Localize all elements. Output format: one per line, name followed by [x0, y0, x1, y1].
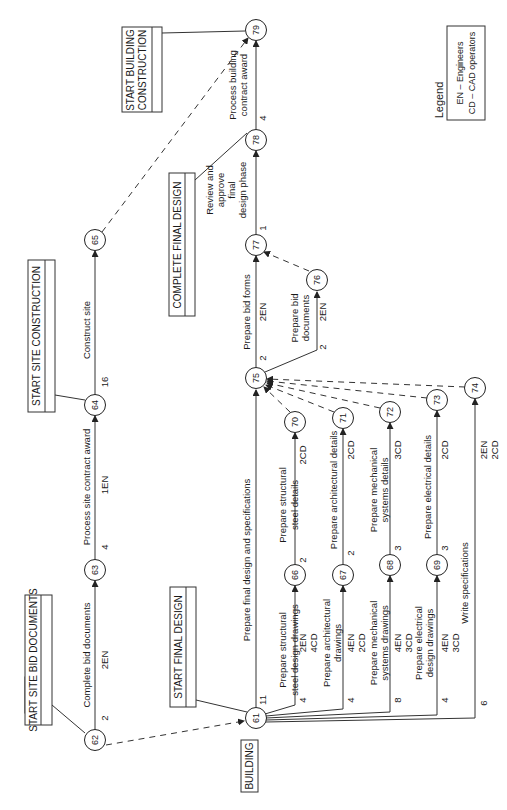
svg-text:steel details: steel details — [289, 480, 300, 530]
svg-text:1: 1 — [257, 225, 268, 230]
svg-text:Prepare structural: Prepare structural — [277, 467, 288, 543]
svg-text:2CD: 2CD — [297, 445, 308, 464]
svg-text:78: 78 — [251, 135, 261, 145]
dummy-76-77 — [264, 252, 309, 271]
svg-text:3CD: 3CD — [392, 440, 403, 459]
dummy-62-61 — [106, 721, 244, 745]
node-70: 70 — [285, 412, 306, 433]
legend-item-cd: CD – CAD operators — [467, 31, 477, 114]
dummy-71-75 — [266, 385, 334, 412]
svg-text:66: 66 — [290, 570, 300, 580]
node-67: 67 — [333, 565, 354, 586]
svg-text:2EN: 2EN — [478, 441, 489, 460]
svg-text:Process site contract award: Process site contract award — [81, 429, 92, 546]
svg-text:Construct site: Construct site — [81, 301, 92, 359]
node-68: 68 — [380, 555, 401, 576]
node-75: 75 — [246, 368, 267, 389]
svg-text:3: 3 — [392, 545, 403, 550]
milestone-start-final-design: START FINAL DESIGN — [170, 587, 247, 712]
svg-text:79: 79 — [251, 25, 261, 35]
svg-text:62: 62 — [90, 735, 100, 745]
svg-text:4: 4 — [99, 544, 110, 549]
svg-text:design phase: design phase — [237, 162, 248, 219]
building-label-box: BUILDING — [241, 740, 258, 792]
dummy-74-75 — [267, 379, 465, 387]
svg-text:3: 3 — [439, 545, 450, 550]
svg-text:61: 61 — [251, 713, 261, 723]
node-79: 79 — [246, 20, 267, 41]
svg-text:2CD: 2CD — [439, 440, 450, 459]
node-69: 69 — [427, 555, 448, 576]
legend-item-en: EN – Engineers — [455, 41, 465, 105]
svg-text:4: 4 — [345, 697, 356, 702]
svg-text:Process building: Process building — [227, 50, 238, 120]
svg-text:Complete bid documents: Complete bid documents — [81, 602, 92, 707]
svg-text:2: 2 — [99, 715, 110, 720]
svg-text:2: 2 — [257, 355, 268, 360]
svg-text:73: 73 — [432, 395, 442, 405]
svg-text:8: 8 — [392, 697, 403, 702]
node-76: 76 — [307, 270, 328, 291]
svg-text:2EN: 2EN — [99, 651, 110, 670]
svg-text:4CD: 4CD — [308, 633, 319, 652]
node-64: 64 — [85, 395, 106, 416]
svg-text:Prepare mechanical: Prepare mechanical — [368, 448, 379, 533]
svg-text:Prepare electrical details: Prepare electrical details — [422, 435, 433, 539]
svg-text:Prepare bid forms: Prepare bid forms — [241, 274, 252, 350]
svg-text:approve: approve — [215, 173, 226, 207]
svg-text:systems details: systems details — [379, 457, 390, 522]
svg-text:4EN: 4EN — [439, 634, 450, 653]
svg-text:Write specifications: Write specifications — [459, 542, 470, 624]
svg-text:2EN: 2EN — [297, 634, 308, 653]
node-77: 77 — [246, 235, 267, 256]
svg-text:4: 4 — [257, 115, 268, 120]
milestone-complete-final-design: COMPLETE FINAL DESIGN — [169, 133, 247, 316]
svg-text:75: 75 — [251, 373, 261, 383]
svg-text:4: 4 — [439, 697, 450, 702]
svg-text:START FINAL DESIGN: START FINAL DESIGN — [173, 595, 184, 699]
svg-text:1EN: 1EN — [99, 476, 110, 495]
svg-text:drawings: drawings — [332, 624, 343, 662]
svg-text:START BUILDING: START BUILDING — [125, 29, 136, 111]
svg-text:2CD: 2CD — [489, 440, 500, 459]
svg-text:64: 64 — [90, 400, 100, 410]
milestone-start-site-bid-documents: START SITE BID DOCUMENTS — [25, 588, 85, 733]
svg-text:START SITE BID DOCUMENTS: START SITE BID DOCUMENTS — [28, 588, 39, 732]
svg-text:2EN: 2EN — [317, 303, 328, 322]
svg-text:3CD: 3CD — [450, 633, 461, 652]
network-diagram: SITE START SITE BID DOCUMENTS START SITE… — [0, 0, 507, 810]
svg-text:START SITE CONSTRUCTION: START SITE CONSTRUCTION — [31, 266, 42, 406]
svg-text:Review and: Review and — [204, 165, 215, 215]
node-72: 72 — [380, 402, 401, 423]
svg-text:2: 2 — [297, 557, 308, 562]
svg-text:6: 6 — [478, 700, 489, 705]
svg-text:2EN: 2EN — [257, 303, 268, 322]
svg-text:Prepare architectural: Prepare architectural — [321, 599, 332, 687]
legend-title: Legend — [433, 82, 445, 119]
node-66: 66 — [285, 565, 306, 586]
svg-text:Prepare final design and speci: Prepare final design and specifications — [241, 478, 252, 641]
legend: Legend EN – Engineers CD – CAD operators — [433, 26, 485, 120]
svg-text:contract award: contract award — [238, 54, 249, 116]
svg-text:77: 77 — [251, 240, 261, 250]
node-65: 65 — [85, 230, 106, 251]
svg-text:71: 71 — [338, 413, 348, 423]
node-74: 74 — [465, 378, 486, 399]
svg-text:74: 74 — [470, 383, 480, 393]
svg-text:systems drawings: systems drawings — [379, 605, 390, 681]
svg-text:Prepare structural: Prepare structural — [277, 612, 288, 688]
svg-text:4EN: 4EN — [392, 634, 403, 653]
svg-text:4EN: 4EN — [345, 634, 356, 653]
svg-text:65: 65 — [90, 235, 100, 245]
svg-text:Prepare architectural details: Prepare architectural details — [328, 431, 339, 550]
svg-text:COMPLETE FINAL DESIGN: COMPLETE FINAL DESIGN — [172, 182, 183, 309]
node-71: 71 — [333, 408, 354, 429]
node-73: 73 — [427, 390, 448, 411]
svg-text:design drawings: design drawings — [424, 608, 435, 677]
svg-text:CONSTRUCTION: CONSTRUCTION — [137, 30, 148, 111]
svg-text:4: 4 — [297, 697, 308, 702]
svg-text:Prepare bid: Prepare bid — [289, 293, 300, 342]
svg-text:2CD: 2CD — [356, 633, 367, 652]
svg-text:70: 70 — [290, 417, 300, 427]
svg-text:Prepare mechanical: Prepare mechanical — [368, 601, 379, 686]
